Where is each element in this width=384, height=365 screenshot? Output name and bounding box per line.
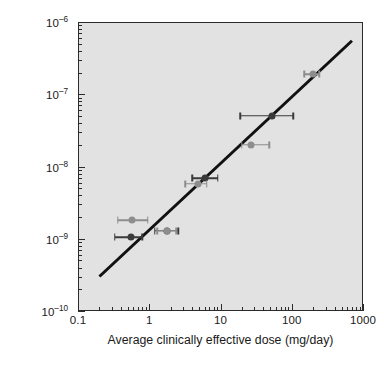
- x-minor-tick: [183, 307, 184, 311]
- y-minor-tick: [78, 242, 82, 243]
- x-minor-tick: [352, 307, 353, 311]
- y-major-tick: [78, 22, 85, 23]
- error-bar-cap: [117, 217, 119, 224]
- y-minor-tick: [78, 217, 82, 218]
- x-minor-tick: [112, 307, 113, 311]
- x-major-tick: [363, 304, 364, 311]
- x-minor-tick: [138, 307, 139, 311]
- x-minor-tick: [99, 307, 100, 311]
- data-point: [127, 234, 134, 241]
- y-minor-tick: [78, 188, 82, 189]
- y-major-tick: [78, 239, 85, 240]
- x-minor-tick: [281, 307, 282, 311]
- error-bar: [242, 144, 269, 146]
- y-major-tick: [78, 311, 85, 312]
- x-minor-tick: [347, 307, 348, 311]
- x-minor-tick: [276, 307, 277, 311]
- y-minor-tick: [78, 38, 82, 39]
- y-minor-tick: [78, 170, 82, 171]
- error-bar-cap: [142, 234, 144, 241]
- x-minor-tick: [199, 307, 200, 311]
- y-minor-tick: [78, 250, 82, 251]
- x-minor-tick: [360, 307, 361, 311]
- y-minor-tick: [78, 277, 82, 278]
- y-tick-label: 10–6: [46, 15, 68, 29]
- y-tick-label: 10–9: [46, 232, 68, 246]
- error-bar-cap: [293, 112, 295, 119]
- data-point: [248, 141, 255, 148]
- y-minor-tick: [78, 145, 82, 146]
- x-minor-tick: [270, 307, 271, 311]
- y-tick-label: 10–10: [42, 304, 68, 318]
- y-minor-tick: [78, 33, 82, 34]
- y-minor-tick: [78, 289, 82, 290]
- y-minor-tick: [78, 101, 82, 102]
- fit-line-layer: [78, 22, 363, 311]
- y-minor-tick: [78, 29, 82, 30]
- x-minor-tick: [121, 307, 122, 311]
- x-minor-tick: [209, 307, 210, 311]
- y-minor-tick: [78, 183, 82, 184]
- x-minor-tick: [288, 307, 289, 311]
- y-minor-tick: [78, 178, 82, 179]
- error-bar-cap: [147, 217, 149, 224]
- error-bar-cap: [268, 141, 270, 148]
- x-major-tick: [149, 304, 150, 311]
- y-major-tick: [78, 167, 85, 168]
- x-minor-tick: [214, 307, 215, 311]
- y-minor-tick: [78, 73, 82, 74]
- y-major-tick: [78, 94, 85, 95]
- error-bar-cap: [191, 175, 193, 182]
- data-point: [310, 71, 317, 78]
- error-bar: [240, 115, 293, 117]
- y-tick-label: 10–7: [46, 87, 68, 101]
- error-bar-cap: [241, 141, 243, 148]
- error-bar-cap: [154, 227, 156, 234]
- x-tick-label: 0.1: [70, 314, 86, 326]
- x-minor-tick: [242, 307, 243, 311]
- y-minor-tick: [78, 116, 82, 117]
- y-minor-tick: [78, 255, 82, 256]
- y-minor-tick: [78, 44, 82, 45]
- plot-area: [78, 22, 363, 311]
- x-minor-tick: [254, 307, 255, 311]
- x-major-tick: [221, 304, 222, 311]
- y-minor-tick: [78, 174, 82, 175]
- error-bar-cap: [157, 227, 159, 234]
- x-minor-tick: [128, 307, 129, 311]
- x-minor-tick: [335, 307, 336, 311]
- error-bar-cap: [240, 112, 242, 119]
- x-minor-tick: [171, 307, 172, 311]
- y-minor-tick: [78, 51, 82, 52]
- x-tick-label: 100: [282, 314, 302, 326]
- figure: 10–610–710–810–910–10 0.11101001000 Aver…: [0, 0, 384, 365]
- y-minor-tick: [78, 204, 82, 205]
- x-minor-tick: [263, 307, 264, 311]
- x-minor-tick: [142, 307, 143, 311]
- error-bar-cap: [177, 227, 179, 234]
- x-tick-label: 1: [146, 314, 153, 326]
- x-minor-tick: [205, 307, 206, 311]
- error-bar-cap: [184, 180, 186, 187]
- x-minor-tick: [285, 307, 286, 311]
- y-minor-tick: [78, 132, 82, 133]
- data-point: [129, 217, 136, 224]
- y-minor-tick: [78, 268, 82, 269]
- y-minor-tick: [78, 98, 82, 99]
- error-bar-cap: [319, 71, 321, 78]
- x-minor-tick: [146, 307, 147, 311]
- x-minor-tick: [326, 307, 327, 311]
- y-minor-tick: [78, 260, 82, 261]
- x-minor-tick: [192, 307, 193, 311]
- y-minor-tick: [78, 105, 82, 106]
- x-major-tick: [292, 304, 293, 311]
- x-minor-tick: [313, 307, 314, 311]
- y-minor-tick: [78, 123, 82, 124]
- error-bar-cap: [217, 175, 219, 182]
- y-minor-tick: [78, 246, 82, 247]
- x-major-tick: [78, 304, 79, 311]
- error-bar-cap: [176, 227, 178, 234]
- x-minor-tick: [217, 307, 218, 311]
- x-minor-tick: [133, 307, 134, 311]
- x-tick-label: 1000: [350, 314, 376, 326]
